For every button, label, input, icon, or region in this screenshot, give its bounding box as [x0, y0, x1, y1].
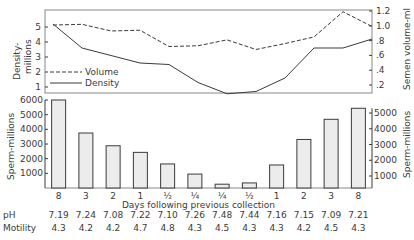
- motility-value: 4.3: [188, 223, 202, 233]
- x-category-label: 8: [356, 191, 362, 201]
- density-axis-label: millions: [23, 39, 33, 74]
- x-category-label: 3: [328, 191, 334, 201]
- bar: [79, 133, 93, 188]
- ph-value: 7.15: [294, 210, 314, 220]
- density-axis-label: Density-: [12, 43, 22, 80]
- x-axis-title: Days following previous collection: [122, 200, 275, 210]
- motility-value: 4.2: [79, 223, 93, 233]
- y2-tick-label: .8: [376, 36, 385, 46]
- bar: [133, 152, 147, 188]
- motility-value: 4.3: [242, 223, 256, 233]
- legend-density-label: Density: [85, 78, 120, 88]
- bar-y2-tick-label: 1000: [374, 171, 397, 181]
- bar-y-tick-label: 3000: [20, 139, 43, 149]
- ph-value: 7.10: [158, 210, 178, 220]
- y2-tick-label: .2: [376, 80, 385, 90]
- bar: [324, 119, 338, 188]
- bar: [242, 183, 256, 188]
- bar-y-tick-label: 4000: [20, 124, 43, 134]
- x-category-label: 3: [83, 191, 89, 201]
- volume-line: [53, 12, 372, 50]
- ph-value: 7.22: [130, 210, 150, 220]
- ph-label: pH: [3, 210, 15, 220]
- bar: [270, 165, 284, 188]
- motility-value: 4.5: [324, 223, 338, 233]
- y-tick-label: 2: [35, 67, 41, 77]
- motility-value: 4.3: [51, 223, 65, 233]
- bar: [351, 108, 365, 188]
- ph-value: 7.21: [348, 210, 368, 220]
- bar-y2-tick-label: 5000: [374, 108, 397, 118]
- ph-value: 7.26: [185, 210, 205, 220]
- bar-y2-tick-label: 4000: [374, 124, 397, 134]
- y2-tick-label: 1.0: [376, 21, 391, 31]
- volume-axis-label: Semen volume-ml: [402, 8, 412, 90]
- legend-volume-label: Volume: [85, 67, 119, 77]
- ph-value: 7.44: [239, 210, 259, 220]
- bar: [215, 184, 229, 188]
- motility-value: 4.7: [133, 223, 147, 233]
- y2-tick-label: 1.2: [376, 6, 390, 16]
- motility-value: 4.2: [297, 223, 311, 233]
- x-category-label: 2: [301, 191, 307, 201]
- y2-tick-label: .6: [376, 50, 385, 60]
- x-category-label: 2: [110, 191, 116, 201]
- ph-value: 7.16: [267, 210, 287, 220]
- x-category-label: 8: [56, 191, 62, 201]
- motility-label: Motility: [3, 223, 36, 233]
- bar: [161, 164, 175, 188]
- ph-value: 7.09: [321, 210, 341, 220]
- bar: [52, 100, 66, 188]
- motility-value: 4.3: [351, 223, 365, 233]
- y-tick-label: 5: [35, 22, 41, 32]
- chart-figure: 543211.21.0.8.6.4.2Density-millionsSemen…: [0, 0, 414, 240]
- bar-y-tick-label: 2000: [20, 154, 43, 164]
- motility-value: 4.3: [269, 223, 283, 233]
- bar-y2-tick-label: 3000: [374, 140, 397, 150]
- ph-value: 7.08: [103, 210, 123, 220]
- bar-y2-tick-label: 2000: [374, 155, 397, 165]
- bar-y-tick-label: 1000: [20, 168, 43, 178]
- bar: [106, 146, 120, 188]
- ph-value: 7.48: [212, 210, 232, 220]
- ph-value: 7.24: [76, 210, 96, 220]
- bar-y-tick-label: 6000: [20, 95, 43, 105]
- ph-value: 7.19: [49, 210, 69, 220]
- y-tick-label: 4: [35, 37, 41, 47]
- bar: [188, 174, 202, 188]
- y2-tick-label: .4: [376, 65, 385, 75]
- bar-left-axis-label: Sperm-millions: [6, 113, 16, 180]
- bar-y-tick-label: 5000: [20, 110, 43, 120]
- bar-right-axis-label: Sperm-millions: [402, 111, 412, 178]
- y-tick-label: 3: [35, 52, 41, 62]
- motility-value: 4.5: [215, 223, 229, 233]
- bar: [297, 139, 311, 188]
- motility-value: 4.8: [160, 223, 174, 233]
- motility-value: 4.2: [106, 223, 120, 233]
- y-tick-label: 1: [35, 82, 41, 92]
